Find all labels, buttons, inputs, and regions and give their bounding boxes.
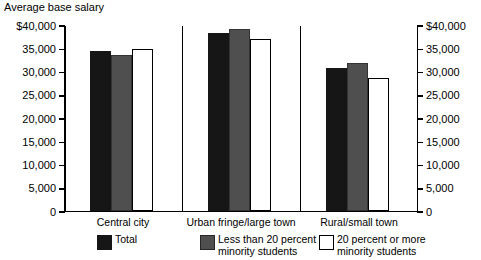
- category-label: Rural/small town: [269, 216, 449, 228]
- left-tick-mark: [59, 211, 65, 213]
- group-separator-line: [300, 26, 301, 212]
- gray-square-swatch: [200, 235, 215, 250]
- black-square-swatch: [97, 235, 112, 250]
- chart-title: Average base salary: [4, 1, 104, 14]
- right-tick-label: 5,000: [426, 183, 454, 194]
- bar-chart: Average base salary 05,00010,00015,00020…: [0, 0, 481, 260]
- bar: [347, 63, 368, 210]
- right-tick-mark: [417, 25, 423, 27]
- left-tick-mark: [59, 188, 65, 190]
- right-tick-label: $40,000: [426, 21, 466, 32]
- bottom-axis-line: [64, 211, 418, 213]
- chart-legend: TotalLess than 20 percent minority stude…: [0, 234, 481, 260]
- right-tick-mark: [417, 95, 423, 97]
- left-tick-label: 35,000: [22, 44, 56, 55]
- right-tick-label: 15,000: [426, 137, 460, 148]
- right-tick-mark: [417, 118, 423, 120]
- left-tick-mark: [59, 49, 65, 51]
- right-tick-label: 20,000: [426, 114, 460, 125]
- left-tick-label: 25,000: [22, 90, 56, 101]
- left-tick-label: 5,000: [28, 183, 56, 194]
- left-tick-label: 15,000: [22, 137, 56, 148]
- bar: [250, 39, 271, 210]
- left-tick-mark: [59, 165, 65, 167]
- right-tick-mark: [417, 165, 423, 167]
- group-separator-line: [182, 26, 183, 212]
- bar: [90, 51, 111, 210]
- legend-label: Less than 20 percent minority students: [218, 234, 316, 257]
- right-tick-label: 10,000: [426, 160, 460, 171]
- left-tick-label: 10,000: [22, 160, 56, 171]
- right-tick-label: 30,000: [426, 67, 460, 78]
- left-tick-mark: [59, 118, 65, 120]
- left-tick-label: $40,000: [16, 21, 56, 32]
- bar: [111, 55, 132, 211]
- left-tick-mark: [59, 142, 65, 144]
- legend-label: 20 percent or more minority students: [337, 234, 426, 257]
- bar: [368, 78, 389, 210]
- bar: [132, 49, 153, 210]
- right-tick-mark: [417, 72, 423, 74]
- bar: [326, 68, 347, 211]
- left-tick-mark: [59, 25, 65, 27]
- right-tick-mark: [417, 188, 423, 190]
- right-tick-mark: [417, 142, 423, 144]
- left-tick-mark: [59, 72, 65, 74]
- right-tick-mark: [417, 49, 423, 51]
- legend-item: Total: [97, 234, 137, 250]
- right-tick-label: 25,000: [426, 90, 460, 101]
- left-tick-mark: [59, 95, 65, 97]
- right-tick-label: 35,000: [426, 44, 460, 55]
- legend-label: Total: [115, 234, 137, 246]
- legend-item: Less than 20 percent minority students: [200, 234, 316, 257]
- left-tick-label: 30,000: [22, 67, 56, 78]
- left-tick-label: 20,000: [22, 114, 56, 125]
- plot-area: 05,00010,00015,00020,00025,00030,00035,0…: [64, 26, 418, 212]
- bar: [229, 29, 250, 211]
- right-tick-mark: [417, 211, 423, 213]
- bar: [208, 33, 229, 211]
- white-square-swatch: [319, 235, 334, 250]
- legend-item: 20 percent or more minority students: [319, 234, 426, 257]
